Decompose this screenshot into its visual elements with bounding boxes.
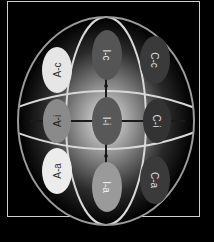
svg-text:A-i: A-i (52, 115, 63, 127)
node-I-c: I-c (92, 30, 122, 80)
node-C-i: C-i (143, 99, 171, 143)
joint-dot-upper (104, 84, 108, 88)
svg-text:A-a: A-a (52, 163, 63, 179)
svg-text:I-a: I-a (101, 181, 112, 193)
svg-text:I-c: I-c (101, 49, 112, 60)
svg-text:I-i: I-i (101, 117, 112, 125)
node-A-a: A-a (42, 148, 72, 194)
joint-dot-lower (104, 154, 108, 158)
sphere-diagram: A-c I-c C-c A-i I-i C-i A-a I-a C-a (0, 0, 214, 242)
node-C-c: C-c (140, 36, 170, 84)
svg-text:C-i: C-i (151, 115, 162, 128)
svg-text:C-a: C-a (149, 172, 160, 189)
node-I-i: I-i (92, 97, 122, 145)
node-A-c: A-c (42, 47, 72, 93)
node-C-a: C-a (140, 156, 170, 204)
svg-text:C-c: C-c (149, 52, 160, 68)
svg-text:A-c: A-c (52, 63, 63, 78)
node-I-a: I-a (92, 162, 122, 212)
node-A-i: A-i (43, 99, 71, 143)
